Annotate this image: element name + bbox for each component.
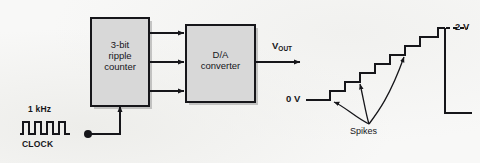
two-volt-label: 2 V	[455, 22, 469, 33]
staircase-reset-drop	[445, 28, 472, 113]
ripple-counter-label-line3: counter	[91, 62, 149, 73]
clock-frequency-label: 1 kHz	[28, 105, 51, 115]
figure-canvas: 3-bit ripple counter D/A converter 1 kHz…	[0, 0, 480, 163]
vout-label: VOUT	[272, 41, 292, 52]
da-converter-label-line2: converter	[186, 61, 255, 72]
staircase-waveform	[318, 28, 445, 100]
clock-waveform	[20, 122, 70, 134]
spike-arrow-left	[334, 102, 369, 124]
clock-wire	[88, 110, 120, 134]
ripple-counter-label: 3-bit ripple counter	[91, 40, 149, 73]
clock-name-label: CLOCK	[22, 140, 53, 150]
diagram-svg	[0, 0, 480, 163]
zero-volt-label: 0 V	[286, 94, 300, 105]
da-converter-label: D/A converter	[186, 50, 255, 72]
spike-arrow-middle	[360, 84, 369, 124]
spikes-label: Spikes	[350, 126, 377, 136]
vout-label-subscript: OUT	[278, 45, 292, 52]
